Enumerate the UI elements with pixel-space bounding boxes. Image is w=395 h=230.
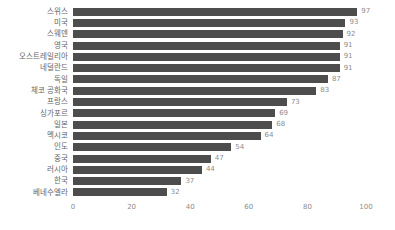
chart-row: 스웨덴92 [0,29,395,40]
category-label: 체코 공화국 [0,87,73,95]
chart-row: 체코 공화국83 [0,85,395,96]
value-label: 97 [361,8,370,15]
value-label: 91 [344,65,353,72]
value-label: 54 [235,144,244,151]
value-label: 91 [344,42,353,49]
x-tick-label: 20 [127,204,136,211]
chart-row: 한국37 [0,175,395,186]
bar [73,53,340,61]
x-axis: 020406080100 [0,204,395,216]
chart-rows: 스위스97미국93스웨덴92영국91오스트레일리아91네덜란드91독일87체코 … [0,6,395,198]
chart-row: 일본68 [0,119,395,130]
bar-chart: 스위스97미국93스웨덴92영국91오스트레일리아91네덜란드91독일87체코 … [0,0,395,230]
value-label: 92 [347,31,356,38]
category-label: 한국 [0,177,73,185]
bar [73,143,231,151]
chart-row: 미국93 [0,17,395,28]
category-label: 미국 [0,19,73,27]
category-label: 인도 [0,143,73,151]
chart-row: 중국47 [0,153,395,164]
bar [73,155,211,163]
x-tick-label: 100 [359,204,372,211]
value-label: 44 [206,166,215,173]
bar [73,109,275,117]
value-label: 37 [185,178,194,185]
value-label: 69 [279,110,288,117]
bar [73,42,340,50]
value-label: 32 [171,189,180,196]
value-label: 87 [332,76,341,83]
value-label: 93 [349,19,358,26]
category-label: 러시아 [0,166,73,174]
bar [73,64,340,72]
chart-row: 네덜란드91 [0,62,395,73]
category-label: 스웨덴 [0,30,73,38]
chart-row: 독일87 [0,74,395,85]
category-label: 오스트레일리아 [0,53,73,61]
bar [73,188,167,196]
value-label: 91 [344,53,353,60]
category-label: 스위스 [0,8,73,16]
chart-row: 오스트레일리아91 [0,51,395,62]
value-label: 83 [320,87,329,94]
chart-row: 러시아44 [0,164,395,175]
value-label: 73 [291,99,300,106]
category-label: 독일 [0,76,73,84]
x-tick-label: 80 [303,204,312,211]
bar [73,87,316,95]
category-label: 싱가포르 [0,110,73,118]
chart-row: 인도54 [0,142,395,153]
category-label: 일본 [0,121,73,129]
category-label: 프랑스 [0,98,73,106]
bar [73,75,328,83]
chart-row: 싱가포르69 [0,108,395,119]
x-tick-label: 0 [71,204,75,211]
chart-row: 프랑스73 [0,96,395,107]
bar [73,166,202,174]
chart-row: 베네수엘라32 [0,187,395,198]
bar [73,121,272,129]
chart-row: 영국91 [0,40,395,51]
bar [73,177,181,185]
bar [73,98,287,106]
bar [73,132,261,140]
chart-row: 스위스97 [0,6,395,17]
category-label: 멕시코 [0,132,73,140]
bar [73,30,343,38]
value-label: 47 [215,155,224,162]
value-label: 64 [265,132,274,139]
value-label: 68 [276,121,285,128]
bar [73,8,357,16]
x-tick-label: 40 [186,204,195,211]
chart-row: 멕시코64 [0,130,395,141]
category-label: 영국 [0,42,73,50]
category-label: 네덜란드 [0,64,73,72]
category-label: 베네수엘라 [0,189,73,197]
x-tick-label: 60 [244,204,253,211]
bar [73,19,345,27]
category-label: 중국 [0,155,73,163]
